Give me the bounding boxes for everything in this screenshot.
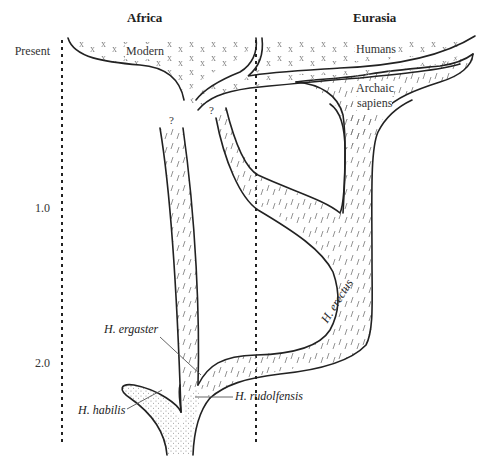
species-label-rudolfensis: H. rudolfensis bbox=[235, 389, 303, 404]
uncertain-mark-eurasia: ? bbox=[209, 104, 214, 116]
time-label-1-0: 1.0 bbox=[6, 201, 50, 216]
time-label-present: Present bbox=[6, 44, 50, 59]
lineage-label-humans: Humans bbox=[355, 42, 397, 57]
region-label-eurasia: Eurasia bbox=[353, 10, 396, 26]
region-label-africa: Africa bbox=[127, 10, 162, 26]
uncertain-mark-africa: ? bbox=[169, 114, 174, 126]
time-label-2-0: 2.0 bbox=[6, 356, 50, 371]
species-label-ergaster: H. ergaster bbox=[104, 322, 158, 337]
species-label-habilis: H. habilis bbox=[78, 403, 125, 418]
lineage-label-archaic: Archaic bbox=[356, 81, 394, 96]
lineage-label-sapiens: sapiens bbox=[357, 96, 392, 111]
lineage-label-modern: Modern bbox=[125, 44, 165, 59]
erectus-branch-fill bbox=[198, 96, 400, 398]
